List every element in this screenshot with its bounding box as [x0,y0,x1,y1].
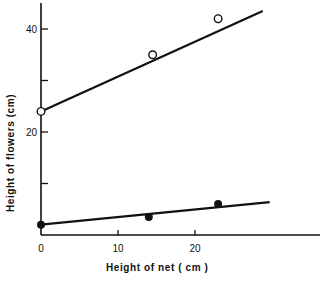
fit-line [41,202,270,225]
open-circle-marker [214,15,222,23]
series-layer [37,11,270,229]
x-tick-label: 20 [189,243,201,254]
y-tick-label: 20 [26,127,38,138]
fit-line [41,11,263,111]
filled-circle-marker [214,200,222,208]
x-axis-title: Height of net ( cm ) [106,262,209,273]
series-filled-circles [37,200,270,229]
x-tick-label: 10 [112,243,124,254]
open-circle-marker [37,108,45,116]
axes: 204001020 [26,3,320,254]
open-circle-marker [149,51,157,59]
line-chart: 204001020 Height of net ( cm ) Height of… [0,0,327,283]
y-axis-title: Height of flowers (cm) [5,94,16,212]
x-tick-label: 0 [38,243,44,254]
filled-circle-marker [145,213,153,221]
series-open-circles [37,11,263,115]
y-tick-label: 40 [26,24,38,35]
filled-circle-marker [37,221,45,229]
